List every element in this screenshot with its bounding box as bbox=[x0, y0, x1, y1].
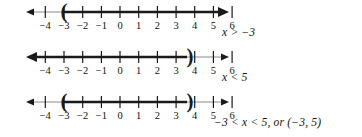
left-arrowhead-icon bbox=[26, 99, 34, 106]
inequality-label-1: x > −3 bbox=[222, 26, 255, 38]
right-arrowhead-icon bbox=[218, 7, 229, 17]
tick-label: 5 bbox=[211, 65, 216, 76]
inequality-label-3: −3 < x < 5, or (−3, 5) bbox=[214, 116, 321, 128]
tick-label: −4 bbox=[40, 65, 52, 76]
tick-labels: −4 −3 −2 −1 0 1 2 3 4 5 6 bbox=[40, 65, 235, 76]
left-arrowhead-icon bbox=[26, 9, 34, 16]
number-line-graph-1: ( −4 −3 −2 −1 0 1 2 3 4 5 6 bbox=[0, 0, 362, 45]
tick-label: 0 bbox=[117, 110, 122, 121]
tick-label: 2 bbox=[155, 65, 160, 76]
number-line-graph-3: ( ) −4 −3 −2 −1 0 1 2 3 4 5 6 bbox=[0, 90, 362, 137]
tick-label: 2 bbox=[155, 20, 160, 31]
tick-label: 1 bbox=[136, 65, 141, 76]
left-arrowhead-icon bbox=[26, 52, 37, 62]
right-arrowhead-icon bbox=[221, 99, 229, 106]
tick-labels: −4 −3 −2 −1 0 1 2 3 4 5 6 bbox=[40, 20, 235, 31]
tick-label: −1 bbox=[96, 20, 107, 31]
number-line-row: ) −4 −3 −2 −1 0 1 2 3 4 5 6 x < 5 bbox=[0, 45, 362, 90]
tick-label: 1 bbox=[136, 20, 141, 31]
number-line-row: ( ) −4 −3 −2 −1 0 1 2 3 4 5 6 −3 < x < 5… bbox=[0, 90, 362, 135]
tick-label: 1 bbox=[136, 110, 141, 121]
tick-label: −2 bbox=[77, 110, 88, 121]
right-arrowhead-icon bbox=[221, 54, 229, 61]
tick-label: −3 bbox=[58, 20, 69, 31]
inequality-label-2: x < 5 bbox=[222, 71, 247, 83]
number-line-graph-2: ) −4 −3 −2 −1 0 1 2 3 4 5 6 bbox=[0, 45, 362, 90]
tick-label: −1 bbox=[96, 65, 107, 76]
tick-label: 0 bbox=[117, 65, 122, 76]
tick-labels: −4 −3 −2 −1 0 1 2 3 4 5 6 bbox=[40, 110, 235, 121]
number-line-figure: ( −4 −3 −2 −1 0 1 2 3 4 5 6 x > −3 bbox=[0, 0, 362, 137]
tick-label: 3 bbox=[173, 110, 178, 121]
tick-label: 4 bbox=[192, 65, 198, 76]
tick-label: −2 bbox=[77, 20, 88, 31]
tick-label: 4 bbox=[192, 110, 198, 121]
tick-label: −1 bbox=[96, 110, 107, 121]
tick-label: −3 bbox=[58, 65, 69, 76]
number-line-row: ( −4 −3 −2 −1 0 1 2 3 4 5 6 x > −3 bbox=[0, 0, 362, 45]
tick-label: −4 bbox=[40, 20, 52, 31]
tick-label: −4 bbox=[40, 110, 52, 121]
tick-label: 3 bbox=[173, 65, 178, 76]
tick-label: 4 bbox=[192, 20, 198, 31]
tick-label: −2 bbox=[77, 65, 88, 76]
tick-label: 0 bbox=[117, 20, 122, 31]
tick-label: −3 bbox=[58, 110, 69, 121]
tick-label: 5 bbox=[211, 20, 216, 31]
tick-label: 2 bbox=[155, 110, 160, 121]
tick-label: 3 bbox=[173, 20, 178, 31]
